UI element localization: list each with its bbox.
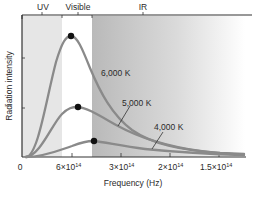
band-label-ir: IR [139,2,148,12]
series-label-6000k: 6,000 K [101,68,131,78]
x-tick-6e14: 6×1014 [56,162,81,172]
x-tick-2e14: 2×1014 [158,162,183,172]
x-tick-0: 0 [18,162,23,172]
peak-marker-5000k [75,104,81,110]
series-label-4000k: 4,000 K [154,122,184,132]
band-label-uv: UV [37,2,49,12]
band-label-visible: Visible [66,2,91,12]
uv-band [22,16,62,157]
x-axis-label: Frequency (Hz) [104,178,163,188]
peak-marker-4000k [91,138,97,144]
x-tick-3e14: 3×1014 [109,162,134,172]
blackbody-chart: UV Visible IR 6,000 K 5,000 K 4,000 K Ra… [0,0,258,199]
y-axis-label: Radiation intensity [4,51,14,121]
ir-band [92,16,245,157]
series-label-5000k: 5,000 K [122,98,152,108]
x-tick-1.5e14: 1.5×1014 [200,162,232,172]
peak-marker-6000k [68,33,74,39]
